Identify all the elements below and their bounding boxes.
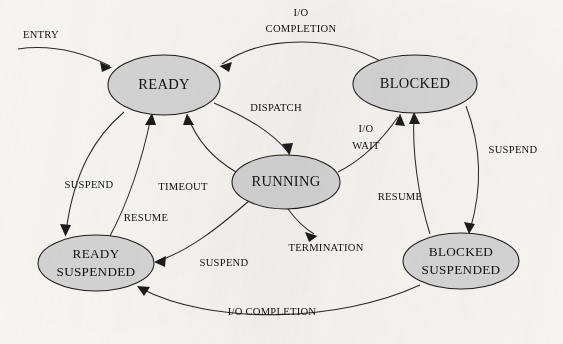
edge-label-suspend-running: SUSPEND bbox=[200, 257, 249, 268]
state-diagram-canvas: ENTRY I/O COMPLETION DISPATCH TIMEOUT I/… bbox=[0, 0, 563, 344]
arrow-head-suspend-ready bbox=[60, 224, 71, 237]
arrow-head-suspend-running bbox=[154, 256, 166, 267]
state-node-running[interactable]: RUNNING bbox=[232, 155, 340, 209]
state-node-blocked[interactable]: BLOCKED bbox=[353, 55, 477, 113]
edge-io-completion-path bbox=[222, 42, 382, 64]
edge-label-termination: TERMINATION bbox=[288, 242, 363, 253]
edge-label-io-completion-line2: COMPLETION bbox=[266, 23, 337, 34]
state-node-ready[interactable]: READY bbox=[108, 55, 220, 115]
edge-label-suspend-ready: SUSPEND bbox=[65, 179, 114, 190]
transition-suspend-running: SUSPEND bbox=[154, 200, 250, 268]
transition-io-wait: I/O WAIT bbox=[338, 114, 405, 173]
edge-suspend-running-path bbox=[158, 200, 250, 261]
state-label-blocked-suspended-line2: SUSPENDED bbox=[422, 262, 501, 277]
process-state-diagram: ENTRY I/O COMPLETION DISPATCH TIMEOUT I/… bbox=[0, 0, 563, 344]
arrow-head-suspend-blocked bbox=[464, 222, 475, 234]
edge-label-io-wait-line1: I/O bbox=[359, 123, 374, 134]
edge-timeout-path bbox=[188, 117, 236, 172]
state-ellipse-ready-suspended[interactable] bbox=[38, 235, 154, 291]
edge-label-io-completion-suspended: I/O COMPLETION bbox=[228, 306, 317, 317]
state-node-blocked-suspended[interactable]: BLOCKED SUSPENDED bbox=[403, 233, 519, 289]
transition-resume-blocked: RESUME bbox=[378, 112, 430, 234]
edge-termination-path bbox=[288, 209, 314, 234]
state-label-blocked: BLOCKED bbox=[380, 75, 451, 91]
state-ellipse-blocked-suspended[interactable] bbox=[403, 233, 519, 289]
edge-suspend-blocked-path bbox=[466, 106, 479, 230]
state-label-ready-suspended-line1: READY bbox=[73, 246, 120, 261]
state-node-ready-suspended[interactable]: READY SUSPENDED bbox=[38, 235, 154, 291]
edge-label-suspend-blocked: SUSPEND bbox=[489, 144, 538, 155]
edge-label-timeout: TIMEOUT bbox=[158, 181, 208, 192]
edge-resume-blocked-path bbox=[414, 116, 430, 234]
transition-resume-ready: RESUME bbox=[110, 113, 168, 236]
transition-suspend-blocked: SUSPEND bbox=[464, 106, 538, 234]
arrow-head-io-completion-suspended bbox=[137, 286, 150, 296]
edge-suspend-ready-path bbox=[66, 112, 124, 232]
edge-label-io-wait-line2: WAIT bbox=[352, 140, 380, 151]
arrow-head-io-completion bbox=[220, 62, 233, 72]
state-label-ready: READY bbox=[138, 76, 190, 92]
transition-suspend-ready: SUSPEND bbox=[60, 112, 124, 237]
edge-label-resume-ready: RESUME bbox=[124, 212, 168, 223]
edge-label-entry: ENTRY bbox=[23, 29, 59, 40]
arrow-head-termination bbox=[305, 232, 318, 242]
edge-label-resume-blocked: RESUME bbox=[378, 191, 422, 202]
transition-timeout: TIMEOUT bbox=[158, 114, 236, 193]
transition-dispatch: DISPATCH bbox=[214, 102, 302, 155]
edge-entry-path bbox=[18, 48, 110, 66]
arrow-head-timeout bbox=[183, 114, 194, 126]
transition-io-completion-blocked-ready: I/O COMPLETION bbox=[220, 7, 383, 72]
transition-termination: TERMINATION bbox=[288, 209, 364, 253]
state-label-blocked-suspended-line1: BLOCKED bbox=[429, 244, 493, 259]
transition-entry: ENTRY bbox=[18, 29, 112, 72]
state-label-ready-suspended-line2: SUSPENDED bbox=[57, 264, 136, 279]
edge-label-dispatch: DISPATCH bbox=[250, 102, 302, 113]
transition-io-completion-suspended: I/O COMPLETION bbox=[137, 285, 420, 317]
arrow-head-resume-blocked bbox=[409, 112, 420, 124]
edge-label-io-completion-line1: I/O bbox=[294, 7, 309, 18]
arrow-head-dispatch bbox=[282, 143, 293, 156]
state-label-running: RUNNING bbox=[252, 173, 321, 189]
